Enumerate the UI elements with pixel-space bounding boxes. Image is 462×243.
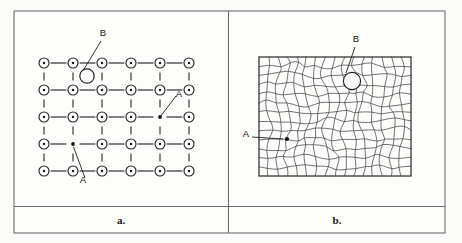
lattice-atom-core [101,62,104,65]
lattice-vacancy-defect [71,142,75,146]
mesh-vacancy-defect [285,137,289,141]
lattice-atom-core [101,89,104,92]
lattice-atom-core [43,116,46,119]
lattice-atom-core [72,89,75,92]
lattice-atom-core [101,143,104,146]
panel-b-label-b: B [353,33,359,44]
panel-a-label-a-right: A [176,88,183,99]
panel-a-label-a-lower: A [80,174,87,185]
lattice-atom-core [130,116,133,119]
lattice-atom-core [72,170,75,173]
caption-a: a. [117,214,126,226]
lattice-atom-core [101,170,104,173]
lattice-atom-core [101,116,104,119]
lattice-atom-core [159,170,162,173]
lattice-atom-core [159,143,162,146]
lattice-atom-core [188,170,191,173]
panel-b-label-a: A [243,128,250,139]
lattice-atom-core [130,143,133,146]
lattice-atom-core [72,116,75,119]
lattice-atom-core [43,143,46,146]
lattice-atom-core [188,89,191,92]
figure-canvas: BAA BA a. b. [0,0,462,243]
lattice-atom-core [130,62,133,65]
lattice-atom-core [130,170,133,173]
lattice-atom-core [188,116,191,119]
lattice-atom-core [188,143,191,146]
figure-root: BAA BA a. b. [0,0,462,243]
caption-b: b. [333,214,342,226]
lattice-atom-core [43,62,46,65]
lattice-atom-core [188,62,191,65]
panel-a-label-b: B [100,27,106,38]
lattice-atom-core [43,89,46,92]
figure-outer-background [14,11,445,233]
lattice-atom-core [72,62,75,65]
lattice-atom-core [43,170,46,173]
lattice-atom-core [130,89,133,92]
lattice-atom-core [159,62,162,65]
lattice-atom-core [159,89,162,92]
